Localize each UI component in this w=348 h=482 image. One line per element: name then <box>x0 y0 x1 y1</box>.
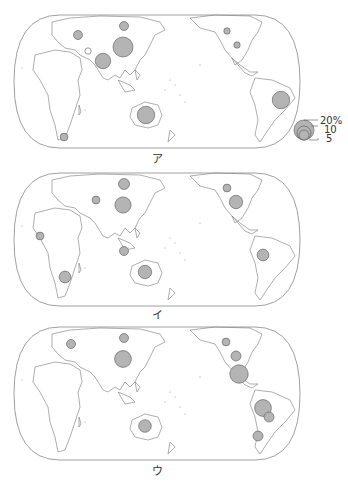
bubbles-u <box>67 334 275 442</box>
pacific-islands <box>22 376 201 422</box>
bubble-russia-siberia <box>120 334 129 343</box>
bubble-mexico <box>230 365 248 383</box>
world-map-u <box>0 0 348 482</box>
bubble-chile-argentina <box>253 431 263 441</box>
panel-label-u: ウ <box>0 462 314 478</box>
bubble-bolivia <box>264 412 274 422</box>
map-panel-u: ウ <box>0 0 348 482</box>
bubble-europe-poland <box>67 340 76 349</box>
bubble-australia <box>139 420 152 433</box>
bubble-united-states <box>231 351 241 361</box>
bubble-canada <box>222 338 230 346</box>
bubble-china <box>115 351 132 368</box>
